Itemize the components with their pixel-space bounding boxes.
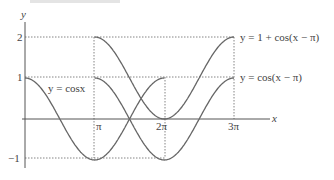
label-cos-shift: y = cos(x − π)	[240, 71, 302, 84]
y-tick-1: 1	[17, 71, 23, 83]
x-axis-label: x	[271, 112, 277, 124]
label-cos-x: y = cosx	[48, 82, 86, 94]
x-tick-3pi: 3π	[228, 120, 240, 132]
y-axis-label: y	[20, 8, 26, 20]
cosine-graph: y x 2 1 −1 π 2π 3π y = cosx y = 1 + cos(…	[0, 0, 334, 180]
curve-one-plus-cos-x-minus-pi	[95, 37, 234, 119]
y-tick-neg1: −1	[8, 152, 20, 164]
y-tick-2: 2	[17, 31, 23, 43]
x-tick-pi: π	[96, 120, 102, 132]
guide-lines	[25, 37, 234, 158]
label-one-plus-cos: y = 1 + cos(x − π)	[240, 31, 319, 44]
x-tick-2pi: 2π	[156, 120, 168, 132]
cropped-header-text	[30, 0, 120, 3]
